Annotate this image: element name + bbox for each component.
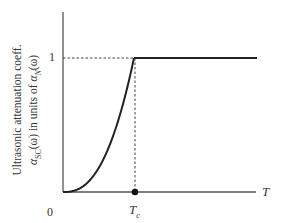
origin-label: 0 (47, 205, 53, 220)
x-axis-label: T (262, 184, 269, 200)
n-subscript: N (34, 70, 43, 75)
tc-label: Tc (129, 202, 140, 220)
y-label-line1: Ultrasonic attenuation coeff. (9, 44, 25, 175)
y-axis-label: Ultrasonic attenuation coeff. αSC(ω) in … (9, 44, 46, 175)
tc-marker-dot (132, 189, 139, 196)
alpha-symbol-2: α (27, 76, 39, 82)
y-label-line2: αSC(ω) in units of αN(ω) (25, 44, 46, 175)
y-label-end: (ω) (27, 55, 39, 70)
attenuation-curve (63, 58, 134, 192)
y-label-mid: (ω) in units of (27, 82, 39, 150)
alpha-symbol: α (27, 159, 39, 165)
tc-label-sub: c (136, 211, 140, 220)
y-tick-one: 1 (49, 50, 55, 65)
sc-subscript: SC (34, 149, 43, 159)
